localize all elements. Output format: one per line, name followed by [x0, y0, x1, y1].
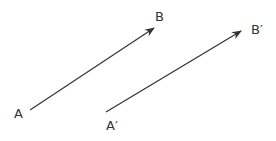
vector-a-prime-b-prime	[106, 31, 241, 112]
label-b: B	[155, 10, 164, 23]
vector-drawing	[0, 0, 276, 141]
vector-ab	[30, 28, 154, 110]
label-a-prime: A′	[106, 119, 118, 132]
label-a: A	[14, 107, 23, 120]
diagram-canvas: A B A′ B′	[0, 0, 276, 141]
label-b-prime: B′	[251, 23, 263, 36]
